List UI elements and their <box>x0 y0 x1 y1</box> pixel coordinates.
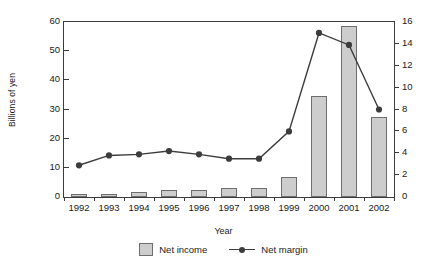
line-marker <box>346 42 352 48</box>
x-tick-mark <box>94 197 95 201</box>
y2-tick-label: 16 <box>402 16 428 26</box>
x-tick-mark <box>394 197 395 201</box>
line-marker <box>226 156 232 162</box>
y-tick-mark <box>64 50 69 51</box>
plot-inner <box>64 22 394 197</box>
x-tick-mark <box>304 197 305 201</box>
y-axis-title-text: Billions of yen <box>7 73 17 127</box>
y2-tick-label: 0 <box>402 191 428 201</box>
x-tick-mark <box>214 197 215 201</box>
y2-tick-label: 10 <box>402 82 428 92</box>
y-tick-mark <box>64 79 69 80</box>
y2-tick-label: 4 <box>402 147 428 157</box>
y2-tick-mark <box>394 174 399 175</box>
y2-tick-label: 12 <box>402 60 428 70</box>
line-marker <box>376 106 382 112</box>
line-marker <box>76 162 82 168</box>
plot-area <box>63 21 395 198</box>
y-tick-label: 50 <box>34 45 60 55</box>
y2-tick-mark <box>394 65 399 66</box>
x-tick-mark <box>274 197 275 201</box>
y2-tick-mark <box>394 130 399 131</box>
chart-legend: Net income Net margin <box>0 243 447 256</box>
y-tick-label: 40 <box>34 74 60 84</box>
chart-figure: Billions of yen 0102030405060 0246810121… <box>0 0 447 267</box>
y-tick-label: 30 <box>34 104 60 114</box>
line-marker <box>286 128 292 134</box>
x-tick-mark <box>154 197 155 201</box>
y2-tick-mark <box>394 43 399 44</box>
x-tick-mark <box>64 197 65 201</box>
legend-label-net-income: Net income <box>159 244 207 255</box>
legend-item-net-income: Net income <box>139 243 207 256</box>
line-path <box>79 33 379 165</box>
y2-tick-label: 14 <box>402 38 428 48</box>
legend-line-marker-icon <box>229 245 255 255</box>
line-marker <box>196 151 202 157</box>
x-tick-mark <box>244 197 245 201</box>
y2-tick-label: 6 <box>402 125 428 135</box>
legend-label-net-margin: Net margin <box>261 244 307 255</box>
y-tick-label: 60 <box>34 16 60 26</box>
y-tick-mark <box>64 138 69 139</box>
x-axis-title: Year <box>0 226 447 236</box>
y2-tick-mark <box>394 87 399 88</box>
y2-tick-label: 8 <box>402 104 428 114</box>
x-tick-label: 2002 <box>359 202 399 213</box>
line-marker <box>166 148 172 154</box>
legend-item-net-margin: Net margin <box>229 244 307 255</box>
line-marker <box>256 156 262 162</box>
y2-tick-label: 2 <box>402 169 428 179</box>
y-tick-label: 20 <box>34 133 60 143</box>
x-tick-mark <box>124 197 125 201</box>
y2-tick-mark <box>394 152 399 153</box>
x-tick-mark <box>334 197 335 201</box>
y-tick-label: 0 <box>34 191 60 201</box>
line-marker <box>136 151 142 157</box>
x-axis-title-text: Year <box>214 226 232 236</box>
y2-tick-mark <box>394 109 399 110</box>
y-tick-mark <box>64 109 69 110</box>
x-tick-mark <box>184 197 185 201</box>
line-marker <box>106 152 112 158</box>
legend-swatch-icon <box>139 243 153 256</box>
x-tick-mark <box>364 197 365 201</box>
y-axis-title: Billions of yen <box>2 0 22 200</box>
line-series-net-margin <box>64 22 394 197</box>
y-tick-label: 10 <box>34 162 60 172</box>
y-tick-mark <box>64 167 69 168</box>
line-marker <box>316 30 322 36</box>
